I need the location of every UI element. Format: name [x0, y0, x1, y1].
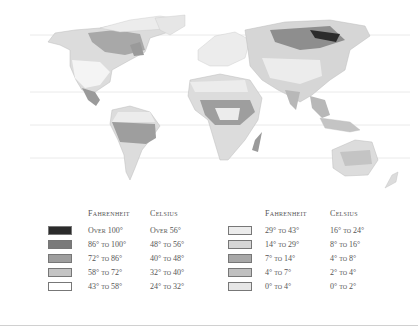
new-zealand [385, 172, 398, 188]
legend-row: Over 100° Over 56° [48, 225, 238, 237]
legend-row: 58° to 72° 32° to 40° [48, 267, 238, 279]
swatch-58-72 [48, 268, 72, 277]
world-map [0, 0, 418, 205]
legend-right-celsius-header: Celsius [330, 209, 358, 218]
celsius-label: 48° to 56° [150, 239, 184, 251]
legend-right-fahrenheit-header: Fahrenheit [265, 209, 307, 218]
legend-row: 29° to 43° 16° to 24° [228, 225, 418, 237]
celsius-label: 2° to 4° [330, 267, 356, 279]
swatch-14-29 [228, 240, 252, 249]
legend-left-celsius-header: Celsius [150, 209, 178, 218]
south-america [110, 106, 160, 180]
swatch-86-100 [48, 240, 72, 249]
europe [198, 32, 250, 66]
legend-row: 0° to 4° 0° to 2° [228, 281, 418, 293]
fahrenheit-label: 7° to 14° [265, 253, 295, 265]
fahrenheit-label: 43° to 58° [88, 281, 122, 293]
africa [188, 74, 262, 160]
temperature-legend: Fahrenheit Celsius Over 100° Over 56° 86… [0, 205, 418, 305]
swatch-7-14 [228, 254, 252, 263]
legend-row: 43° to 58° 24° to 32° [48, 281, 238, 293]
fahrenheit-label: 86° to 100° [88, 239, 126, 251]
legend-row: 14° to 29° 8° to 16° [228, 239, 418, 251]
legend-row: 86° to 100° 48° to 56° [48, 239, 238, 251]
swatch-43-58 [48, 282, 72, 291]
indonesia [320, 118, 360, 132]
swatch-4-7 [228, 268, 252, 277]
celsius-label: 4° to 8° [330, 253, 356, 265]
celsius-label: 32° to 40° [150, 267, 184, 279]
legend-row: 4° to 7° 2° to 4° [228, 267, 418, 279]
fahrenheit-label: 58° to 72° [88, 267, 122, 279]
celsius-label: 8° to 16° [330, 239, 360, 251]
legend-left-fahrenheit-header: Fahrenheit [88, 209, 130, 218]
fahrenheit-label: 0° to 4° [265, 281, 291, 293]
fahrenheit-label: 14° to 29° [265, 239, 299, 251]
asia [245, 20, 370, 118]
swatch-over-100 [48, 226, 72, 235]
fahrenheit-label: Over 100° [88, 225, 123, 237]
legend-row: 7° to 14° 4° to 8° [228, 253, 418, 265]
bottom-divider [0, 325, 418, 326]
celsius-label: 40° to 48° [150, 253, 184, 265]
fahrenheit-label: 4° to 7° [265, 267, 291, 279]
swatch-72-86 [48, 254, 72, 263]
swatch-0-4 [228, 282, 252, 291]
legend-row: 72° to 86° 40° to 48° [48, 253, 238, 265]
celsius-label: 24° to 32° [150, 281, 184, 293]
swatch-29-43 [228, 226, 252, 235]
fahrenheit-label: 29° to 43° [265, 225, 299, 237]
fahrenheit-label: 72° to 86° [88, 253, 122, 265]
australia [332, 140, 378, 176]
celsius-label: 16° to 24° [330, 225, 364, 237]
celsius-label: Over 56° [150, 225, 181, 237]
celsius-label: 0° to 2° [330, 281, 356, 293]
